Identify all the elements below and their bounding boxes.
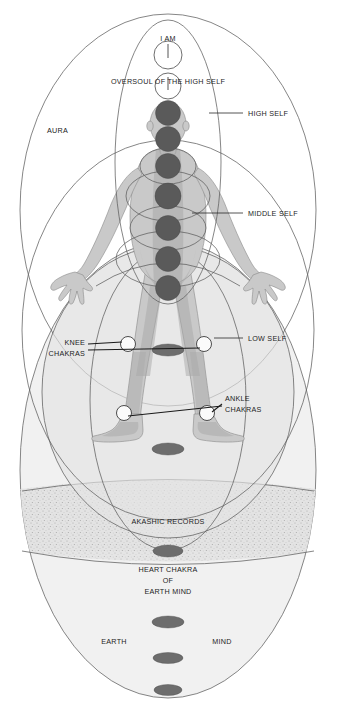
earth-chakra-4 xyxy=(152,616,184,628)
label-middle-self: MIDDLE SELF xyxy=(248,209,298,218)
chakra-root xyxy=(156,276,181,301)
label-akashic-records: AKASHIC RECORDS xyxy=(131,517,204,526)
label-ankle-chakras-line2: CHAKRAS xyxy=(225,405,262,414)
label-heart-chakra-line2: OF xyxy=(163,576,174,585)
chakra-heart xyxy=(155,183,181,209)
ankle-chakra-left xyxy=(117,406,132,421)
label-heart-chakra-line3: EARTH MIND xyxy=(144,587,191,596)
label-oversoul: OVERSOUL OF THE HIGH SELF xyxy=(111,77,225,86)
earth-chakra-3 xyxy=(153,545,183,557)
earth-chakra-6 xyxy=(154,685,182,696)
chakra-sacral xyxy=(156,247,181,272)
chakra-throat xyxy=(156,154,181,179)
label-i-am: I AM xyxy=(160,34,175,43)
label-low-self: LOW SELF xyxy=(248,334,287,343)
label-high-self: HIGH SELF xyxy=(248,109,289,118)
earth-chakra-1 xyxy=(152,344,184,356)
label-knee-chakras-line1: KNEE xyxy=(64,338,85,347)
label-heart-chakra-line1: HEART CHAKRA xyxy=(138,565,197,574)
chakra-solar-plexus xyxy=(156,216,181,241)
knee-chakra-right xyxy=(197,337,212,352)
earth-chakra-5 xyxy=(153,653,183,664)
three-selves-chakra-diagram: I AM OVERSOUL OF THE HIGH SELF HIGH SELF… xyxy=(0,0,337,710)
label-mind: MIND xyxy=(212,637,231,646)
earth-chakra-2 xyxy=(152,443,184,455)
label-earth: EARTH xyxy=(101,637,126,646)
label-aura: AURA xyxy=(47,126,68,135)
chakra-third-eye xyxy=(156,127,181,152)
label-ankle-chakras-line1: ANKLE xyxy=(225,394,250,403)
chakra-crown xyxy=(156,101,181,126)
chakra-diagram-root: I AM OVERSOUL OF THE HIGH SELF HIGH SELF… xyxy=(0,0,337,710)
label-knee-chakras-line2: CHAKRAS xyxy=(49,349,86,358)
